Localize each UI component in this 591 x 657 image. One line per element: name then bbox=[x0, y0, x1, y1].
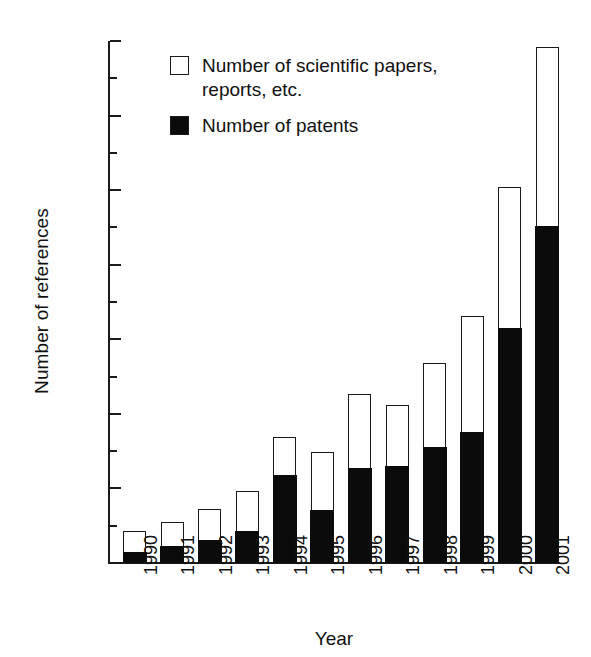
stacked-bar bbox=[536, 47, 559, 562]
y-tick-minor bbox=[110, 376, 117, 378]
x-tick-label: 2000 bbox=[517, 535, 535, 575]
stacked-bar bbox=[498, 187, 521, 562]
y-tick-major bbox=[110, 562, 121, 564]
bar-segment-patents bbox=[535, 226, 559, 563]
x-tick-label: 1990 bbox=[142, 535, 160, 575]
stacked-bar bbox=[461, 316, 484, 562]
x-tick-label: 1993 bbox=[254, 535, 272, 575]
x-tick-label: 1992 bbox=[217, 535, 235, 575]
stacked-bar bbox=[423, 363, 446, 562]
y-tick-minor bbox=[110, 77, 117, 79]
x-tick-label: 1998 bbox=[442, 535, 460, 575]
legend-swatch-patents-icon bbox=[170, 116, 189, 135]
y-tick-major bbox=[110, 338, 121, 340]
y-tick-major bbox=[110, 487, 121, 489]
y-tick-minor bbox=[110, 450, 117, 452]
y-tick-minor bbox=[110, 525, 117, 527]
y-tick-major bbox=[110, 40, 121, 42]
y-tick-major bbox=[110, 115, 121, 117]
y-tick-minor bbox=[110, 152, 117, 154]
y-tick-major bbox=[110, 413, 121, 415]
x-tick-label: 1997 bbox=[404, 535, 422, 575]
y-tick-minor bbox=[110, 301, 117, 303]
bar-chart-figure: Number of references 0100200300400500600… bbox=[0, 0, 591, 657]
legend-item-patents: Number of patents bbox=[170, 114, 480, 138]
x-tick-label: 1995 bbox=[329, 535, 347, 575]
x-axis-title: Year bbox=[108, 628, 560, 650]
legend-label-patents: Number of patents bbox=[202, 114, 358, 138]
legend-swatch-papers-icon bbox=[170, 56, 189, 75]
y-tick-minor bbox=[110, 226, 117, 228]
bar-segment-patents bbox=[498, 328, 522, 563]
x-tick-label: 1991 bbox=[179, 535, 197, 575]
y-tick-major bbox=[110, 189, 121, 191]
x-tick-label: 1999 bbox=[479, 535, 497, 575]
chart-legend: Number of scientific papers,reports, etc… bbox=[170, 54, 480, 150]
legend-item-papers: Number of scientific papers,reports, etc… bbox=[170, 54, 480, 102]
y-tick-major bbox=[110, 264, 121, 266]
x-tick-label: 1994 bbox=[292, 535, 310, 575]
legend-label-papers: Number of scientific papers,reports, etc… bbox=[202, 54, 438, 102]
y-axis-title: Number of references bbox=[31, 171, 53, 431]
x-tick-label: 2001 bbox=[554, 535, 572, 575]
x-tick-label: 1996 bbox=[367, 535, 385, 575]
